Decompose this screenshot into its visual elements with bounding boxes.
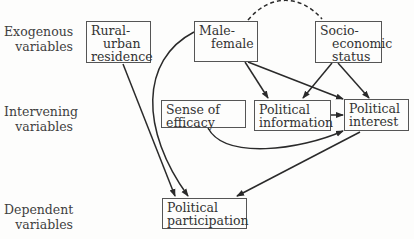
arrow-rural-participation	[123, 64, 175, 196]
row-label-intervening: Intervening variables	[4, 104, 73, 134]
node-rural-urban-residence: Rural- urban residence	[86, 21, 151, 63]
arrow-male-information	[245, 62, 268, 98]
row-label-exogenous: Exogenous variables	[4, 24, 73, 54]
correlation-arc	[248, 0, 322, 20]
arrow-ses-interest	[338, 63, 369, 98]
arrow-interest-participation	[237, 132, 360, 196]
node-male-female: Male- female	[194, 21, 258, 62]
node-political-participation: Political participation	[162, 198, 247, 229]
node-political-information: Political information	[254, 100, 331, 131]
node-political-interest: Political interest	[344, 99, 409, 131]
arrow-efficacy-interest	[208, 128, 343, 149]
node-socioeconomic-status: Socio- economic status	[315, 21, 382, 63]
node-sense-of-efficacy: Sense of efficacy	[161, 100, 246, 128]
row-label-dependent: Dependent variables	[4, 202, 73, 232]
